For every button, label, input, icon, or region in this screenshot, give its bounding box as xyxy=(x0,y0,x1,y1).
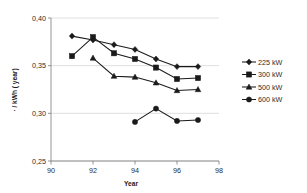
legend-marker-square xyxy=(246,72,251,77)
x-tick-label: 96 xyxy=(173,166,181,175)
y-tick-label: 0,25 xyxy=(32,157,46,166)
data-point xyxy=(153,65,158,70)
data-point xyxy=(174,118,179,123)
data-point xyxy=(132,119,137,124)
data-point xyxy=(69,54,74,59)
legend-marker-circle xyxy=(246,97,251,102)
data-point xyxy=(111,51,116,56)
x-tick-label: 92 xyxy=(89,166,97,175)
chart-canvas: 0,250,300,350,40 9092949698 225 kW300 kW… xyxy=(0,0,307,193)
data-point xyxy=(174,76,179,81)
x-tick-label: 90 xyxy=(47,166,55,175)
legend-label: 500 kW xyxy=(258,83,283,92)
data-point xyxy=(195,75,200,80)
x-tick-label: 98 xyxy=(215,166,223,175)
data-point xyxy=(153,106,158,111)
x-tick-label: 94 xyxy=(131,166,139,175)
y-tick-label: 0,40 xyxy=(32,14,46,23)
line-chart: 0,250,300,350,40 9092949698 225 kW300 kW… xyxy=(0,0,307,193)
data-point xyxy=(90,34,95,39)
data-point xyxy=(195,117,200,122)
legend-label: 225 kW xyxy=(258,58,283,67)
y-axis-title: · / kWh ( year) xyxy=(11,68,19,111)
y-tick-label: 0,35 xyxy=(32,61,46,70)
legend-label: 300 kW xyxy=(258,70,283,79)
legend-label: 600 kW xyxy=(258,95,283,104)
data-point xyxy=(132,56,137,61)
x-axis-title: Year xyxy=(124,180,138,187)
y-tick-label: 0,30 xyxy=(32,109,46,118)
